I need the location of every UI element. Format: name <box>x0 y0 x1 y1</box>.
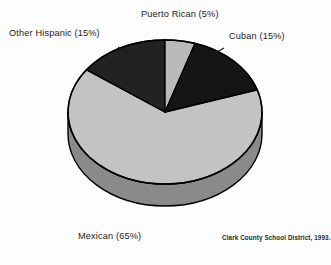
slice-label-mexican: Mexican (65%) <box>78 231 141 242</box>
slice-label-other-hispanic: Other Hispanic (15%) <box>9 28 100 39</box>
slice-label-cuban: Cuban (15%) <box>229 31 285 42</box>
slice-label-puerto-rican: Puerto Rican (5%) <box>141 9 219 20</box>
source-citation: Clark County School District, 1993. <box>222 234 331 242</box>
pie-top-face <box>68 40 262 184</box>
